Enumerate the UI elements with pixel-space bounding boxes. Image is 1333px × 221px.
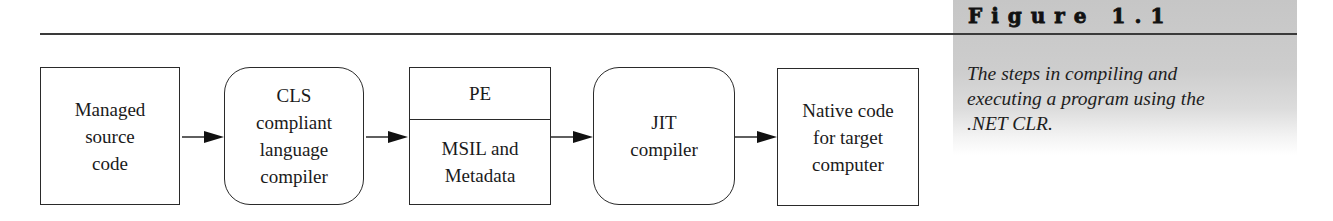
node-cls-compiler: CLS compliant language compiler [224,67,364,205]
arrow-icon [735,131,777,143]
caption-line: executing a program using the [967,86,1287,111]
figure-title: Figure 1.1 [968,3,1173,29]
arrow-icon [551,131,593,143]
figure-caption: The steps in compiling and executing a p… [967,61,1287,136]
node-label-line: MSIL and [442,135,519,162]
node-label-line: CLS [277,82,312,109]
node-label-line: compiler [260,163,328,190]
node-label-line: compiler [630,136,698,163]
node-native-code: Native code for target computer [777,68,919,206]
node-jit-compiler: JIT compiler [593,67,735,205]
node-label-line: for target [813,124,883,151]
pe-header-label: PE [469,80,491,107]
horizontal-rule [40,33,1297,35]
pe-header: PE [410,68,550,120]
node-label-line: Metadata [445,162,516,189]
caption-line: The steps in compiling and [967,61,1287,86]
node-label-line: computer [812,151,884,178]
node-label-line: source [85,123,135,150]
node-label-line: Native code [802,97,893,124]
caption-line: .NET CLR. [967,111,1287,136]
node-managed-source-code: Managed source code [40,67,180,205]
node-label-line: Managed [75,96,146,123]
node-pe: PE MSIL and Metadata [409,67,551,205]
arrow-icon [366,131,408,143]
node-label-line: JIT [651,109,676,136]
node-label-line: code [92,150,128,177]
arrow-icon [182,131,224,143]
node-label-line: language [260,136,329,163]
node-label-line: compliant [256,109,332,136]
pe-body: MSIL and Metadata [410,120,550,204]
